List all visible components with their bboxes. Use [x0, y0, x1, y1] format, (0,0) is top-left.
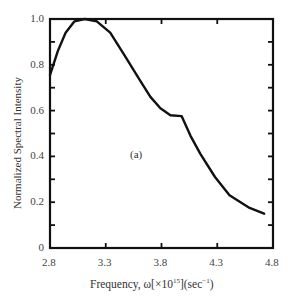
x-tick-label: 3.8	[154, 256, 168, 268]
x-tick-label: 4.3	[209, 256, 223, 268]
plot-frame	[50, 19, 273, 248]
panel-annotation: (a)	[130, 148, 142, 160]
x-axis-label-unit: ](sec	[180, 278, 202, 290]
spectral-curve	[50, 19, 264, 214]
y-tick-label: 0	[39, 241, 45, 253]
y-tick-label: 0.2	[30, 195, 44, 207]
axis-ticks	[50, 19, 273, 248]
x-axis-label: Frequency, ω[×1015](sec−1)	[90, 277, 214, 290]
y-axis-label: Normalized Spectral Intensity	[11, 77, 23, 209]
x-tick-label: 2.8	[42, 256, 56, 268]
x-axis-label-exponent: 15	[173, 277, 180, 285]
x-axis-label-suffix: )	[210, 278, 214, 290]
y-tick-label: 1.0	[30, 12, 44, 24]
y-tick-label: 0.8	[30, 58, 44, 70]
x-tick-label: 3.3	[98, 256, 112, 268]
x-tick-label: 4.8	[265, 256, 279, 268]
y-tick-label: 0.6	[30, 104, 44, 116]
x-axis-label-prefix: Frequency, ω[×10	[90, 278, 173, 290]
y-tick-label: 0.4	[30, 149, 44, 161]
x-axis-label-unit-exponent: −1	[202, 277, 209, 285]
